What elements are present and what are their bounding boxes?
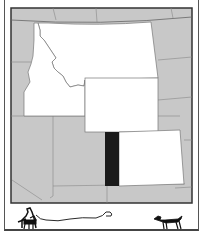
running-dog-icon xyxy=(154,216,182,229)
map xyxy=(0,0,203,236)
person-dog-icon xyxy=(18,208,36,229)
state-colorado xyxy=(119,130,184,186)
state-wyoming xyxy=(85,78,158,132)
state-utah-strip xyxy=(105,132,119,186)
broken-leash xyxy=(36,212,112,221)
